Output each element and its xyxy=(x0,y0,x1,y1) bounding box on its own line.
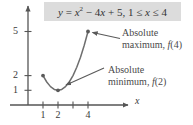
equation-tail2: ≤ 4 xyxy=(150,6,167,18)
point-absolute-minimum xyxy=(56,88,60,92)
equation-equals: = xyxy=(63,6,75,18)
annotation-maximum-prefix: maximum, xyxy=(122,39,168,50)
equation-label-box: y = x2 − 4x + 5, 1 ≤ x ≤ 4 xyxy=(44,2,181,21)
point-left-endpoint xyxy=(41,74,45,78)
y-tick-label-5: 5 xyxy=(10,25,21,36)
x-tick-label-1: 1 xyxy=(37,109,49,120)
pointer-line-maximum xyxy=(93,33,121,39)
equation-tail: + 5, 1 ≤ xyxy=(105,6,145,18)
annotation-maximum-line1: Absolute xyxy=(122,27,182,39)
annotation-minimum-line1: Absolute xyxy=(108,64,166,76)
annotation-absolute-maximum: Absolute maximum, f(4) xyxy=(122,27,182,50)
point-absolute-maximum xyxy=(86,30,90,34)
y-tick-label-2: 2 xyxy=(10,69,21,80)
parabola-curve xyxy=(43,32,88,91)
annotation-minimum-prefix: minimum, xyxy=(108,76,152,87)
equation-label-text: y = x2 − 4x + 5, 1 ≤ x ≤ 4 xyxy=(58,6,167,18)
figure-container: y = x2 − 4x + 5, 1 ≤ x ≤ 4 Absolute maxi… xyxy=(0,0,193,125)
annotation-minimum-arg: (2) xyxy=(155,76,167,87)
annotation-absolute-minimum: Absolute minimum, f(2) xyxy=(108,64,166,87)
x-axis-label: x xyxy=(135,95,139,106)
x-tick-label-4: 4 xyxy=(82,109,94,120)
y-tick-label-1: 1 xyxy=(10,84,21,95)
annotation-minimum-line2: minimum, f(2) xyxy=(108,76,166,88)
annotation-maximum-line2: maximum, f(4) xyxy=(122,39,182,51)
equation-rest: − 4 xyxy=(83,6,100,18)
x-tick-label-2: 2 xyxy=(52,109,64,120)
annotation-maximum-arg: (4) xyxy=(170,39,182,50)
